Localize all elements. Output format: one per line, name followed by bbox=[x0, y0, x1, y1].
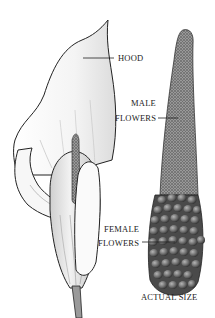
male-flowers-label-line1: MALE bbox=[118, 98, 156, 108]
botanical-illustration: HOOD MALE FLOWERS FEMALE FLOWERS ACTUAL … bbox=[0, 0, 215, 318]
female-flowers-label-line2: FLOWERS bbox=[98, 238, 139, 248]
spadix bbox=[160, 30, 198, 195]
plant-drawing bbox=[0, 0, 215, 318]
female-flower-cluster bbox=[148, 194, 205, 295]
stem bbox=[72, 286, 82, 318]
hood-label: HOOD bbox=[118, 53, 143, 63]
spathe-front-fold bbox=[75, 162, 100, 275]
male-flowers-label-line2: FLOWERS bbox=[115, 113, 156, 123]
female-flowers-label-line1: FEMALE bbox=[104, 224, 139, 234]
actual-size-caption: ACTUAL SIZE bbox=[141, 292, 197, 302]
